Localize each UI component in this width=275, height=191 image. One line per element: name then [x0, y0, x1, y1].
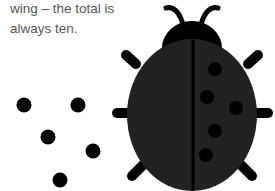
loose-spot-icon [41, 130, 56, 145]
wing-spot-icon [208, 124, 222, 138]
loose-spots [17, 98, 101, 188]
wing-spot-icon [229, 101, 243, 115]
wing-spot-icon [199, 148, 213, 162]
loose-spot-icon [17, 98, 32, 113]
wing-spot-icon [208, 62, 222, 76]
loose-spot-icon [86, 144, 101, 159]
wing-spot-icon [200, 90, 214, 104]
loose-spot-icon [53, 173, 68, 188]
loose-spot-icon [71, 98, 86, 113]
ladybug-illustration [0, 0, 275, 191]
